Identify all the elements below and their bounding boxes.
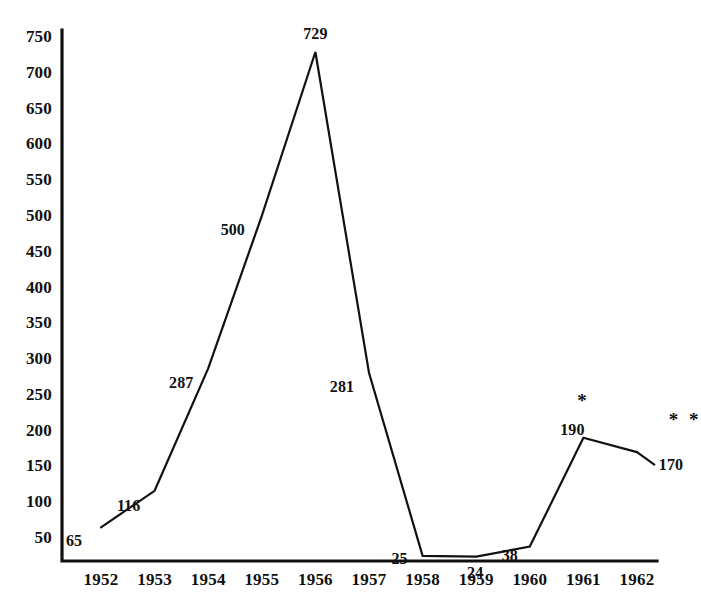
x-tick-1956: 1956 — [285, 570, 345, 590]
y-tick-500: 500 — [6, 206, 52, 226]
point-label-1957: 281 — [330, 378, 354, 396]
x-tick-1960: 1960 — [500, 570, 560, 590]
x-tick-1955: 1955 — [232, 570, 292, 590]
y-tick-550: 550 — [6, 170, 52, 190]
y-tick-250: 250 — [6, 385, 52, 405]
chart-axes — [62, 30, 657, 561]
point-label-1958: 25 — [391, 550, 407, 568]
x-tick-1962: 1962 — [607, 570, 667, 590]
x-tick-1958: 1958 — [393, 570, 453, 590]
point-label-1953: 116 — [117, 497, 140, 515]
x-tick-1961: 1961 — [553, 570, 613, 590]
point-label-1952: 65 — [66, 532, 82, 550]
point-label-1954: 287 — [169, 374, 193, 392]
y-tick-600: 600 — [6, 134, 52, 154]
y-tick-450: 450 — [6, 242, 52, 262]
point-label-1955: 500 — [221, 221, 245, 239]
y-tick-50: 50 — [6, 528, 52, 548]
y-tick-700: 700 — [6, 63, 52, 83]
y-tick-400: 400 — [6, 278, 52, 298]
y-tick-300: 300 — [6, 349, 52, 369]
point-label-1962: 170 — [659, 456, 683, 474]
y-tick-750: 750 — [6, 27, 52, 47]
y-tick-350: 350 — [6, 313, 52, 333]
y-tick-100: 100 — [6, 492, 52, 512]
point-label-1960: 38 — [502, 547, 518, 565]
point-label-1961: 190 — [560, 421, 584, 439]
x-tick-1953: 1953 — [125, 570, 185, 590]
point-label-1959: 24 — [467, 564, 483, 582]
asterisk-1962: * * — [669, 409, 701, 428]
y-tick-200: 200 — [6, 421, 52, 441]
x-tick-1957: 1957 — [339, 570, 399, 590]
x-tick-1954: 1954 — [178, 570, 238, 590]
y-tick-150: 150 — [6, 456, 52, 476]
x-tick-1952: 1952 — [71, 570, 131, 590]
asterisk-1961: * — [577, 390, 590, 409]
leader-line-1962 — [637, 452, 655, 465]
point-label-1956: 729 — [303, 25, 327, 43]
data-series-line — [101, 52, 637, 557]
y-tick-650: 650 — [6, 99, 52, 119]
label-leader-lines — [637, 452, 655, 465]
